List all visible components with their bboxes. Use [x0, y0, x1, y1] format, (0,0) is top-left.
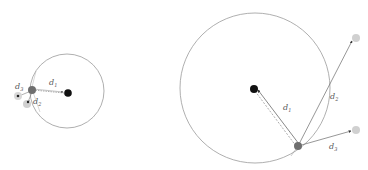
right-d1-dashed-line: [255, 91, 296, 146]
right-neighbor-dot-3: [352, 126, 360, 134]
left-neighbor-dot-2-core: [27, 101, 29, 103]
left-diagram: d1 d2 d3: [14, 54, 104, 128]
right-label-d1: d1: [283, 103, 291, 113]
left-center-dot: [64, 89, 72, 97]
right-d1-arrow: [258, 90, 299, 144]
left-neighbor-dot-2: [23, 100, 31, 108]
left-label-d2: d2: [33, 97, 41, 107]
right-diagram: d1 d2 d3: [180, 13, 360, 163]
left-query-dot: [28, 86, 36, 94]
distance-diagram-figure: d1 d2 d3 d1 d2 d3: [0, 0, 368, 170]
left-neighbor-dot-3-core: [17, 95, 20, 98]
right-d3-arrow: [298, 131, 351, 146]
right-d2-arrow: [298, 41, 352, 146]
right-center-dot: [250, 85, 258, 93]
left-label-d1: d1: [49, 78, 57, 88]
right-label-d3: d3: [329, 142, 337, 152]
right-neighbor-dot-2: [352, 34, 360, 42]
left-label-d3: d3: [15, 82, 23, 92]
right-label-d2: d2: [330, 92, 338, 102]
right-query-dot: [294, 142, 302, 150]
